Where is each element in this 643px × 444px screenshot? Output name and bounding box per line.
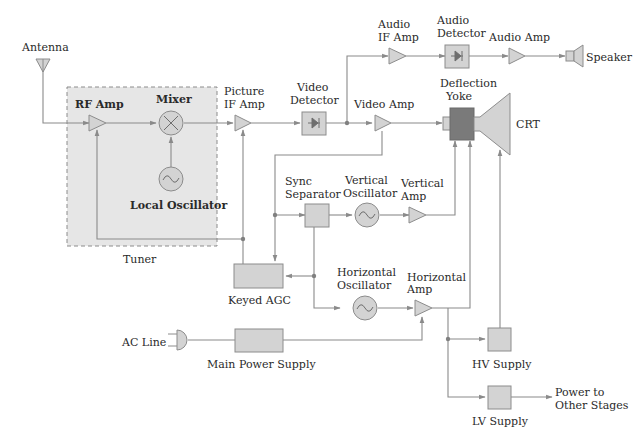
speaker-label: Speaker <box>586 51 633 64</box>
power-out-label-2: Other Stages <box>555 399 629 412</box>
wire-mps-hamp <box>283 317 422 340</box>
vertical-oscillator-label-2: Oscillator <box>343 187 398 200</box>
speaker-icon <box>566 45 583 67</box>
local-oscillator-icon[interactable] <box>159 167 183 191</box>
wire-vdet-aif <box>347 56 388 123</box>
sync-separator-icon[interactable] <box>305 204 329 227</box>
lv-supply-icon[interactable] <box>488 386 511 409</box>
junction-dot <box>345 121 349 125</box>
power-out-label-1: Power to <box>555 386 605 399</box>
hv-supply-icon[interactable] <box>488 328 511 351</box>
mixer-icon[interactable] <box>159 111 183 135</box>
mixer-label: Mixer <box>156 93 192 106</box>
video-detector-label-2: Detector <box>290 94 339 107</box>
keyed-agc-icon[interactable] <box>234 264 283 288</box>
picture-if-amp-icon[interactable] <box>235 115 251 131</box>
audio-detector-label-1: Audio <box>436 14 470 27</box>
sync-separator-label-1: Sync <box>285 175 312 188</box>
deflection-yoke-label-2: Yoke <box>445 90 472 103</box>
local-oscillator-label: Local Oscillator <box>130 199 227 212</box>
hv-supply-label: HV Supply <box>472 358 532 371</box>
main-power-supply-icon[interactable] <box>235 329 283 352</box>
junction-dot <box>273 213 277 217</box>
audio-amp-label: Audio Amp <box>488 31 550 44</box>
junction-dot <box>446 337 450 341</box>
video-amp-label: Video Amp <box>353 98 414 111</box>
vertical-oscillator-icon[interactable] <box>355 203 379 227</box>
vertical-amp-icon[interactable] <box>409 207 426 223</box>
crt-label: CRT <box>516 118 541 131</box>
tv-receiver-block-diagram: Tuner <box>0 0 643 444</box>
ac-plug-icon <box>168 330 187 350</box>
video-detector-label-1: Video <box>296 81 329 94</box>
crt-icon[interactable] <box>474 93 510 155</box>
audio-detector-icon[interactable] <box>445 45 469 68</box>
video-detector-icon[interactable] <box>302 112 326 135</box>
wire-vamp-sync-bus <box>275 131 382 215</box>
rf-amp-label: RF Amp <box>75 98 124 111</box>
antenna-label: Antenna <box>21 41 69 54</box>
wire-hamp-hv <box>448 308 485 339</box>
audio-amp-icon[interactable] <box>509 48 525 64</box>
junction-dot <box>241 237 245 241</box>
audio-if-amp-label-2: IF Amp <box>378 31 419 44</box>
horizontal-oscillator-label-2: Oscillator <box>337 279 392 292</box>
keyed-agc-label: Keyed AGC <box>228 294 291 307</box>
deflection-yoke-icon[interactable] <box>450 108 474 140</box>
lv-supply-label: LV Supply <box>472 415 529 428</box>
vertical-amp-label-1: Vertical <box>400 177 444 190</box>
picture-if-amp-label-2: IF Amp <box>224 98 265 111</box>
horizontal-oscillator-icon[interactable] <box>353 296 377 320</box>
vertical-amp-label-2: Amp <box>400 190 426 203</box>
audio-if-amp-label-1: Audio <box>377 18 411 31</box>
ac-line-label: AC Line <box>121 336 166 349</box>
audio-detector-label-2: Detector <box>437 27 486 40</box>
horizontal-amp-icon[interactable] <box>415 300 432 316</box>
horizontal-oscillator-label-1: Horizontal <box>337 266 396 279</box>
junction-dot <box>312 274 316 278</box>
tuner-label: Tuner <box>123 253 157 266</box>
audio-if-amp-icon[interactable] <box>389 48 406 64</box>
main-power-supply-label: Main Power Supply <box>207 358 316 371</box>
sync-separator-label-2: Separator <box>285 188 342 201</box>
horizontal-amp-label-2: Amp <box>406 283 432 296</box>
video-amp-icon[interactable] <box>375 115 391 131</box>
deflection-yoke-label-1: Deflection <box>440 77 497 90</box>
picture-if-amp-label-1: Picture <box>224 85 264 98</box>
antenna-icon <box>36 59 50 72</box>
vertical-oscillator-label-1: Vertical <box>344 174 388 187</box>
